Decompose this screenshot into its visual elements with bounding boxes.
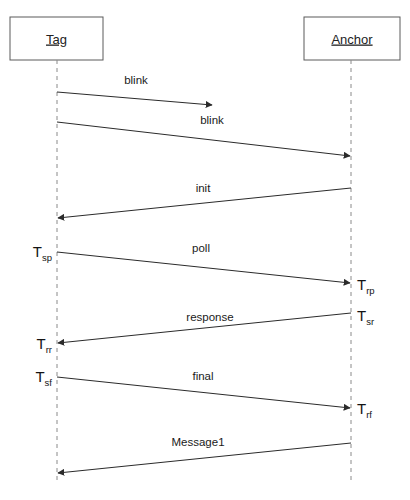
sequence-diagram-canvas: Tag Anchor blinkblinkinitpollresponsefin… <box>0 0 410 500</box>
timestamp-t-sf: Tsf <box>35 368 52 388</box>
message-message1[interactable]: Message1 <box>58 436 351 473</box>
timestamp-sub-t-sf: sf <box>45 377 53 388</box>
timestamp-base-t-rf: T <box>357 400 366 417</box>
timestamp-base-t-sf: T <box>35 368 44 385</box>
timestamp-t-sr: Tsr <box>357 307 374 327</box>
messages-group: blinkblinkinitpollresponsefinalMessage1 <box>57 74 351 473</box>
message-line-poll <box>57 252 350 283</box>
message-label-final: final <box>192 370 213 382</box>
timestamp-sub-t-rf: rf <box>366 409 372 420</box>
timestamp-base-t-rp: T <box>357 276 366 293</box>
actor-label-tag: Tag <box>46 32 67 47</box>
timestamp-sub-t-rp: rp <box>366 285 374 296</box>
timestamp-base-t-rr: T <box>37 335 46 352</box>
message-label-message1: Message1 <box>171 436 224 448</box>
timestamp-base-t-sr: T <box>357 307 366 324</box>
message-label-response: response <box>186 311 233 323</box>
sequence-diagram-svg: Tag Anchor blinkblinkinitpollresponsefin… <box>0 0 410 500</box>
message-poll[interactable]: poll <box>57 242 350 283</box>
message-label-poll: poll <box>192 242 210 254</box>
timestamps-group: TspTrpTsrTrrTsfTrf <box>33 243 375 420</box>
timestamp-sub-t-sr: sr <box>366 316 374 327</box>
message-blink-1[interactable]: blink <box>57 74 212 105</box>
message-label-init: init <box>196 182 212 194</box>
timestamp-t-rp: Trp <box>357 276 375 296</box>
message-line-blink-1 <box>57 92 212 105</box>
message-label-blink-1: blink <box>124 74 148 86</box>
timestamp-base-t-sp: T <box>33 243 42 260</box>
actor-anchor[interactable]: Anchor <box>304 17 400 484</box>
timestamp-t-rr: Trr <box>37 335 53 355</box>
timestamp-sub-t-rr: rr <box>46 344 52 355</box>
message-line-blink-2 <box>57 122 350 156</box>
message-response[interactable]: response <box>58 311 351 343</box>
message-blink-2[interactable]: blink <box>57 114 350 156</box>
timestamp-t-sp: Tsp <box>33 243 52 263</box>
message-final[interactable]: final <box>57 370 350 408</box>
message-label-blink-2: blink <box>200 114 224 126</box>
actor-tag[interactable]: Tag <box>10 17 103 484</box>
timestamp-sub-t-sp: sp <box>42 252 52 263</box>
actor-label-anchor: Anchor <box>331 32 373 47</box>
timestamp-t-rf: Trf <box>357 400 372 420</box>
message-init[interactable]: init <box>58 182 351 218</box>
